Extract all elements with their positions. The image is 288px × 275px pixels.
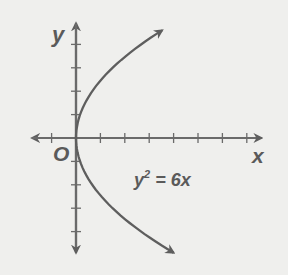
equation-base: y xyxy=(134,170,144,190)
equation-rhs: = 6x xyxy=(150,170,191,190)
parabola-graph xyxy=(0,0,288,275)
y-axis-label: y xyxy=(52,22,64,48)
equation-label: y2 = 6x xyxy=(134,168,191,191)
axes xyxy=(32,23,261,252)
origin-label: O xyxy=(53,142,69,166)
x-axis-label: x xyxy=(252,144,264,168)
